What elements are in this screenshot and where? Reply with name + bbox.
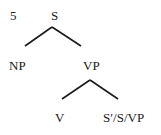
edge-vp-v bbox=[62, 80, 90, 99]
syntax-tree-diagram: 5 S NP VP V S′/S/VP bbox=[0, 0, 161, 135]
edge-s-vp bbox=[52, 27, 81, 46]
node-v: V bbox=[55, 111, 64, 124]
node-np: NP bbox=[9, 59, 26, 72]
node-s: S bbox=[51, 9, 58, 22]
example-number: 5 bbox=[10, 9, 17, 22]
edge-vp-complement bbox=[90, 80, 118, 99]
edge-s-np bbox=[25, 27, 52, 46]
node-vp: VP bbox=[83, 59, 100, 72]
node-complement: S′/S/VP bbox=[103, 111, 144, 124]
